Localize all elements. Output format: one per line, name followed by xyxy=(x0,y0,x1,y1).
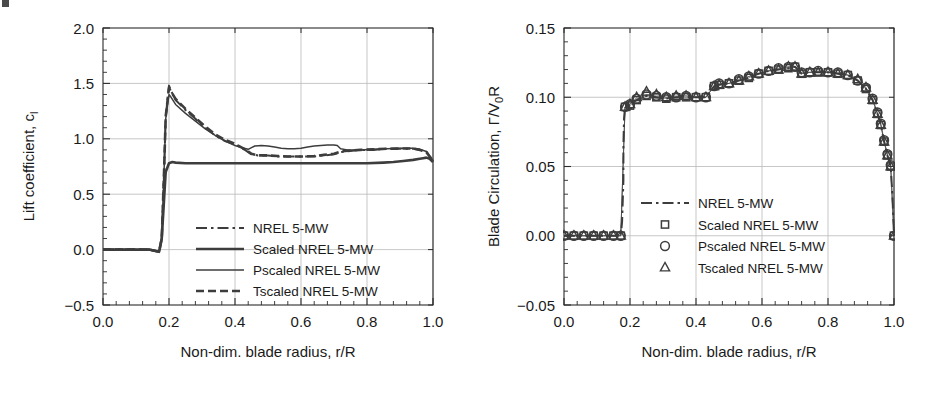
y-axis-title: Lift coefficient, cl xyxy=(20,112,40,222)
y-tick-label: 0.00 xyxy=(526,227,555,244)
x-tick-label: 0.8 xyxy=(818,313,839,330)
y-tick-label: 0.10 xyxy=(526,89,555,106)
legend-label: Scaled NREL 5-MW xyxy=(698,218,819,233)
legend-item: Scaled NREL 5-MW xyxy=(196,242,374,257)
panel-lift-coefficient: 0.00.20.40.60.81.0−0.50.00.51.01.52.0Non… xyxy=(0,0,469,401)
legend: NREL 5-MWScaled NREL 5-MWPscaled NREL 5-… xyxy=(196,221,380,299)
legend-label: NREL 5-MW xyxy=(698,196,774,211)
x-tick-label: 0.8 xyxy=(357,313,378,330)
legend-label: Tscaled NREL 5-MW xyxy=(698,261,823,276)
y-tick-label: 0.0 xyxy=(73,241,94,258)
data-layer xyxy=(559,62,898,240)
legend-label: Pscaled NREL 5-MW xyxy=(698,239,825,254)
y-tick-label: −0.05 xyxy=(517,297,555,314)
x-tick-label: 0.2 xyxy=(620,313,641,330)
x-tick-label: 0.0 xyxy=(93,313,114,330)
x-tick-label: 0.2 xyxy=(159,313,180,330)
y-tick-label: 2.0 xyxy=(73,20,94,37)
lift-coefficient-plot: 0.00.20.40.60.81.0−0.50.00.51.01.52.0Non… xyxy=(0,0,469,401)
y-axis-title: Blade Circulation, Γ/V0R xyxy=(485,86,505,247)
legend-label: Tscaled NREL 5-MW xyxy=(253,284,378,299)
x-tick-label: 0.4 xyxy=(225,313,246,330)
y-tick-label: 0.15 xyxy=(526,20,555,37)
legend-triangle-marker-icon xyxy=(660,263,669,271)
x-tick-label: 1.0 xyxy=(423,313,444,330)
legend-item: Tscaled NREL 5-MW xyxy=(660,261,823,276)
panel-blade-circulation: 0.00.20.40.60.81.0−0.050.000.050.100.15N… xyxy=(469,0,938,401)
legend-square-marker-icon xyxy=(661,221,668,228)
legend-label: Scaled NREL 5-MW xyxy=(253,242,374,257)
legend-item: NREL 5-MW xyxy=(196,221,329,236)
legend-item: Scaled NREL 5-MW xyxy=(661,218,818,233)
x-tick-label: 0.6 xyxy=(752,313,773,330)
legend-label: Pscaled NREL 5-MW xyxy=(253,263,380,278)
blade-circulation-plot: 0.00.20.40.60.81.0−0.050.000.050.100.15N… xyxy=(469,0,938,401)
legend-item: Pscaled NREL 5-MW xyxy=(661,239,826,254)
x-tick-label: 0.0 xyxy=(554,313,575,330)
y-tick-label: 0.5 xyxy=(73,186,94,203)
figure-container: 0.00.20.40.60.81.0−0.50.00.51.01.52.0Non… xyxy=(0,0,938,401)
legend-item: Pscaled NREL 5-MW xyxy=(196,263,380,278)
legend-label: NREL 5-MW xyxy=(253,221,329,236)
legend-circle-marker-icon xyxy=(661,242,670,251)
y-tick-label: 0.05 xyxy=(526,158,555,175)
x-axis-title: Non-dim. blade radius, r/R xyxy=(641,343,816,360)
x-tick-label: 0.6 xyxy=(291,313,312,330)
legend-item: Tscaled NREL 5-MW xyxy=(196,284,378,299)
x-tick-label: 0.4 xyxy=(686,313,707,330)
x-axis-title: Non-dim. blade radius, r/R xyxy=(180,343,355,360)
y-tick-label: 1.5 xyxy=(73,75,94,92)
legend-item: NREL 5-MW xyxy=(641,196,774,211)
x-tick-label: 1.0 xyxy=(884,313,905,330)
y-tick-label: 1.0 xyxy=(73,130,94,147)
series-line-1 xyxy=(103,158,433,252)
y-tick-label: −0.5 xyxy=(64,297,94,314)
